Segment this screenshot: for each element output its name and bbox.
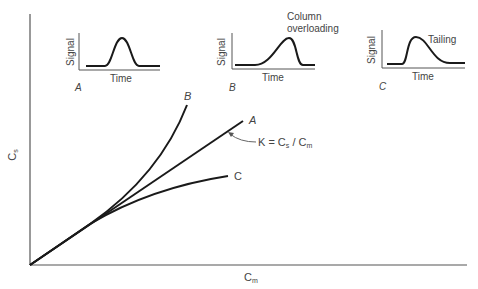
svg-text:Column: Column bbox=[287, 11, 321, 22]
curve-label-a: A bbox=[248, 114, 256, 126]
svg-text:Signal: Signal bbox=[65, 38, 76, 66]
svg-text:Time: Time bbox=[412, 71, 434, 82]
curve-c-concave bbox=[30, 176, 228, 265]
peak-fronting bbox=[235, 38, 315, 65]
inset-a: Signal Time A bbox=[65, 33, 160, 93]
y-axis-label: Cs bbox=[6, 149, 19, 161]
svg-text:Signal: Signal bbox=[366, 36, 377, 64]
isotherm-diagram: Cs Cm B A C K = Cs / Cm Signal Time A Si… bbox=[0, 0, 478, 289]
k-annotation-arrow bbox=[230, 134, 256, 142]
svg-text:Signal: Signal bbox=[216, 38, 227, 66]
x-axis-label: Cm bbox=[244, 271, 258, 284]
svg-text:A: A bbox=[74, 82, 82, 93]
svg-text:C: C bbox=[379, 81, 387, 92]
svg-text:Time: Time bbox=[262, 72, 284, 83]
svg-text:Cs: Cs bbox=[6, 149, 19, 161]
inset-c: Signal Time C Tailing bbox=[366, 30, 465, 92]
inset-b: Signal Time B Column overloading bbox=[216, 11, 339, 93]
curve-label-c: C bbox=[234, 170, 242, 182]
svg-text:B: B bbox=[229, 82, 236, 93]
curve-b-convex bbox=[30, 105, 187, 265]
svg-text:overloading: overloading bbox=[287, 23, 339, 34]
peak-symmetric bbox=[86, 38, 160, 66]
k-equation: K = Cs / Cm bbox=[258, 136, 312, 149]
svg-text:Tailing: Tailing bbox=[428, 34, 456, 45]
svg-text:Time: Time bbox=[110, 73, 132, 84]
curve-label-b: B bbox=[184, 90, 191, 102]
